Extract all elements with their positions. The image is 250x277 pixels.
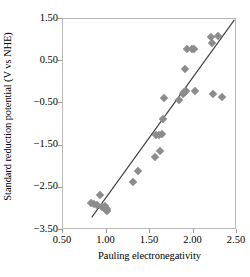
y-axis-title: Standard reduction potential (V vs NHE): [1, 1, 15, 232]
data-point: [96, 190, 104, 198]
data-point: [160, 94, 168, 102]
y-tick-label: −2.50: [18, 181, 58, 192]
x-tick-label-wrap: 1.00: [86, 234, 126, 246]
x-tick-label-wrap: 1.50: [129, 234, 169, 246]
y-tick-label-wrap: −1.50: [12, 139, 58, 150]
data-point: [129, 178, 137, 186]
y-tick-label-wrap: −2.50: [12, 181, 58, 192]
x-axis-title: Pauling electronegativity: [62, 250, 237, 261]
y-tick-label: −0.50: [18, 97, 58, 108]
x-tick-mark: [106, 229, 107, 233]
data-point: [218, 93, 226, 101]
data-point: [208, 90, 216, 98]
x-tick-label: 1.00: [86, 234, 126, 246]
y-tick-label-wrap: −0.50: [12, 97, 58, 108]
x-tick-mark: [236, 229, 237, 233]
data-point: [208, 39, 216, 47]
data-point: [159, 115, 167, 123]
x-tick-mark: [62, 229, 63, 233]
x-tick-label-wrap: 0.50: [42, 234, 82, 246]
y-tick-label-wrap: −3.50: [12, 224, 58, 235]
data-point: [214, 32, 222, 40]
data-point: [191, 86, 199, 94]
x-tick-label-wrap: 2.00: [173, 234, 213, 246]
trendline: [63, 19, 236, 229]
x-tick-mark: [193, 229, 194, 233]
y-tick-label: −3.50: [18, 224, 58, 235]
x-tick-label: 2.00: [173, 234, 213, 246]
y-tick-label-wrap: 0.50: [12, 55, 58, 66]
data-point: [181, 65, 189, 73]
data-point: [134, 167, 142, 175]
x-tick-label: 2.50: [216, 234, 250, 246]
plot-area: [62, 18, 236, 229]
y-tick-label-wrap: 1.50: [12, 13, 58, 24]
y-tick-label: 1.50: [18, 13, 58, 24]
y-tick-label: 0.50: [18, 55, 58, 66]
x-tick-label: 1.50: [129, 234, 169, 246]
x-tick-label: 0.50: [42, 234, 82, 246]
x-tick-mark: [149, 229, 150, 233]
scatter-chart-figure: Standard reduction potential (V vs NHE) …: [0, 0, 250, 277]
x-tick-label-wrap: 2.50: [216, 234, 250, 246]
y-tick-label: −1.50: [18, 139, 58, 150]
